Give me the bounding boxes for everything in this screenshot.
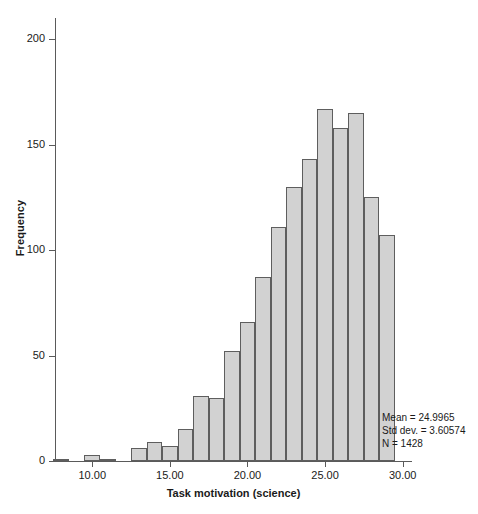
stat-std-dev: Std dev. = 3.60574 xyxy=(382,424,466,437)
histogram-bar xyxy=(193,396,209,461)
histogram-bar xyxy=(286,187,302,461)
y-axis-tick-label-wrap: 200 xyxy=(0,39,55,40)
x-axis-tick xyxy=(170,461,171,467)
histogram-bar xyxy=(131,448,147,461)
stat-n: N = 1428 xyxy=(382,437,466,450)
histogram-bar xyxy=(333,128,349,461)
histogram-bar xyxy=(53,459,69,461)
histogram-bar xyxy=(364,197,380,461)
histogram-bar xyxy=(147,442,163,461)
y-axis-tick-label-wrap: 100 xyxy=(0,250,55,251)
histogram-bar xyxy=(240,322,256,461)
histogram-bars xyxy=(55,18,412,461)
x-axis-tick-label: 10.00 xyxy=(62,470,122,481)
x-axis-tick-label: 20.00 xyxy=(217,470,277,481)
x-axis-tick-label: 25.00 xyxy=(295,470,355,481)
histogram-figure: Frequency 050100150200 10.0015.0020.0025… xyxy=(0,0,478,514)
histogram-bar xyxy=(271,227,287,461)
histogram-bar xyxy=(302,159,318,461)
y-axis-tick-label-wrap: 150 xyxy=(0,145,55,146)
histogram-bar xyxy=(317,109,333,461)
x-axis-tick-label: 15.00 xyxy=(140,470,200,481)
y-axis-title: Frequency xyxy=(14,168,26,288)
y-axis-tick-label: 50 xyxy=(11,350,45,361)
y-axis-tick-label: 100 xyxy=(11,244,45,255)
y-axis-tick-label: 150 xyxy=(11,139,45,150)
histogram-bar xyxy=(209,398,225,461)
y-axis-tick-label: 200 xyxy=(11,33,45,44)
histogram-bar xyxy=(162,446,178,461)
x-axis-tick xyxy=(247,461,248,467)
x-axis-tick-label: 30.00 xyxy=(373,470,433,481)
histogram-bar xyxy=(348,113,364,461)
stat-mean: Mean = 24.9965 xyxy=(382,411,466,424)
x-axis-tick xyxy=(325,461,326,467)
y-axis-tick-label-wrap: 50 xyxy=(0,356,55,357)
x-axis-title: Task motivation (science) xyxy=(55,487,412,499)
histogram-bar xyxy=(84,455,100,461)
y-axis-tick-label: 0 xyxy=(11,455,45,466)
statistics-annotation: Mean = 24.9965 Std dev. = 3.60574 N = 14… xyxy=(382,411,466,450)
x-axis-tick xyxy=(403,461,404,467)
histogram-bar xyxy=(100,459,116,461)
histogram-bar xyxy=(224,351,240,461)
histogram-bar xyxy=(255,277,271,461)
y-axis-tick-label-wrap: 0 xyxy=(0,461,55,462)
histogram-bar xyxy=(178,429,194,461)
x-axis-line xyxy=(55,461,412,462)
x-axis-tick xyxy=(92,461,93,467)
